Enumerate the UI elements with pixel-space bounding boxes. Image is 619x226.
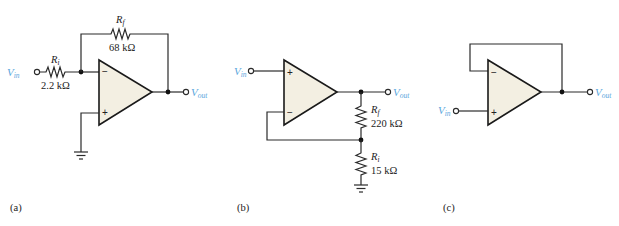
- vin-label-b: Vin: [234, 65, 247, 79]
- resistor-ri-a: [40, 67, 81, 77]
- circuit-a: Vin Ri 2.2 kΩ Rf 68 kΩ − + Vout (a): [7, 14, 208, 214]
- inverting-input-sign: −: [491, 67, 497, 78]
- vout-label-c: Vout: [595, 86, 612, 100]
- output-terminal-a: [183, 89, 188, 94]
- ri-value-a: 2.2 kΩ: [41, 80, 70, 91]
- junction-dot: [560, 90, 565, 95]
- inverting-input-sign: −: [102, 66, 108, 77]
- ri-name-b: Ri: [370, 151, 380, 164]
- junction-dot: [166, 90, 171, 95]
- circuit-c: − + Vin Vout (c): [438, 44, 612, 214]
- input-terminal-a: [34, 69, 39, 74]
- caption-b: (b): [237, 202, 250, 214]
- input-terminal-b: [248, 68, 253, 73]
- rf-value-b: 220 kΩ: [371, 118, 403, 129]
- ground-icon: [354, 185, 368, 192]
- ri-value-b: 15 kΩ: [371, 165, 397, 176]
- caption-a: (a): [10, 202, 22, 214]
- resistor-ri-b: [356, 140, 366, 185]
- inverting-input-sign: −: [287, 107, 293, 118]
- caption-c: (c): [443, 202, 455, 214]
- resistor-rf-b: [356, 92, 366, 140]
- ground-icon: [74, 152, 88, 159]
- rf-value-a: 68 kΩ: [109, 42, 135, 53]
- vout-label-a: Vout: [191, 86, 208, 100]
- noninverting-input-sign: +: [491, 107, 497, 118]
- op-amp-circuits-figure: Vin Ri 2.2 kΩ Rf 68 kΩ − + Vout (a) Vin: [0, 0, 619, 226]
- ri-name-a: Ri: [50, 54, 60, 67]
- rf-name-a: Rf: [115, 14, 125, 27]
- vin-label-c: Vin: [438, 104, 451, 118]
- noninverting-input-sign: +: [102, 107, 108, 118]
- vout-label-b: Vout: [393, 86, 410, 100]
- vin-label-a: Vin: [7, 66, 20, 80]
- output-terminal-b: [385, 89, 390, 94]
- output-terminal-c: [587, 89, 592, 94]
- noninverting-input-sign: +: [287, 67, 293, 78]
- input-terminal-c: [453, 108, 458, 113]
- circuit-b: Vin + − Vout Rf 220 kΩ Ri 15 kΩ (b): [234, 60, 410, 214]
- rf-name-b: Rf: [370, 104, 380, 117]
